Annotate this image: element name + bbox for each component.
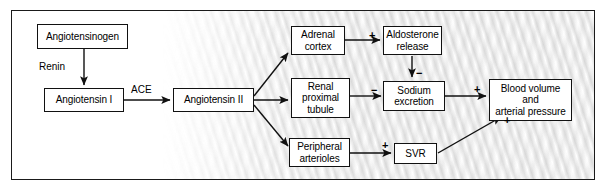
sign-tubule-to-sodium: − bbox=[371, 85, 377, 95]
node-aldosterone-release: Aldosterone release bbox=[383, 26, 442, 55]
node-adrenal-cortex: Adrenal cortex bbox=[291, 26, 345, 55]
figure-canvas: Angiotensinogen Angiotensin I Angiotensi… bbox=[0, 0, 609, 194]
sign-sodium-to-blood-volume: + bbox=[474, 84, 480, 94]
node-blood-volume-label: Blood volume and arterial pressure bbox=[495, 83, 566, 118]
node-adrenal-cortex-label: Adrenal cortex bbox=[301, 29, 335, 52]
node-angiotensin-ii: Angiotensin II bbox=[173, 88, 254, 112]
node-peripheral-arterioles-label: Peripheral arterioles bbox=[297, 141, 342, 164]
node-sodium-excretion: Sodium excretion bbox=[383, 81, 445, 111]
node-renal-proximal-tubule: Renal proximal tubule bbox=[291, 78, 350, 118]
sign-svr-to-blood-volume-text: + bbox=[504, 114, 510, 126]
sign-arterioles-to-svr-text: + bbox=[382, 139, 388, 151]
sign-tubule-to-sodium-text: − bbox=[371, 84, 377, 96]
sign-sodium-to-blood-volume-text: + bbox=[474, 83, 480, 95]
node-aldosterone-release-label: Aldosterone release bbox=[386, 29, 438, 52]
node-sodium-excretion-label: Sodium excretion bbox=[394, 85, 434, 108]
edge-label-ace: ACE bbox=[131, 84, 152, 95]
sign-arterioles-to-svr: + bbox=[382, 140, 388, 150]
node-angiotensin-i-label: Angiotensin I bbox=[56, 94, 113, 106]
edge-label-renin: Renin bbox=[39, 61, 65, 72]
edge-angiotensin-ii-to-peripheral-arterioles bbox=[254, 105, 288, 146]
node-angiotensin-i: Angiotensin I bbox=[44, 88, 124, 112]
edge-angiotensin-ii-to-adrenal-cortex bbox=[254, 53, 288, 96]
edge-svr-to-blood-volume bbox=[438, 117, 501, 153]
node-angiotensinogen-label: Angiotensinogen bbox=[46, 31, 119, 43]
edge-label-renin-text: Renin bbox=[39, 61, 65, 72]
node-renal-proximal-tubule-label: Renal proximal tubule bbox=[302, 81, 339, 116]
node-angiotensin-ii-label: Angiotensin II bbox=[184, 94, 243, 106]
node-peripheral-arterioles: Peripheral arterioles bbox=[289, 138, 350, 167]
sign-adrenal-to-aldosterone: + bbox=[369, 30, 375, 40]
sign-aldosterone-to-sodium: − bbox=[416, 68, 422, 78]
sign-svr-to-blood-volume: + bbox=[504, 115, 510, 125]
sign-aldosterone-to-sodium-text: − bbox=[416, 67, 422, 79]
node-angiotensinogen: Angiotensinogen bbox=[37, 24, 128, 49]
node-blood-volume-arterial-pressure: Blood volume and arterial pressure bbox=[489, 79, 572, 121]
node-svr: SVR bbox=[394, 143, 437, 164]
edge-label-ace-text: ACE bbox=[131, 84, 152, 95]
diagram-frame: Angiotensinogen Angiotensin I Angiotensi… bbox=[11, 10, 595, 180]
node-svr-label: SVR bbox=[405, 148, 425, 160]
sign-adrenal-to-aldosterone-text: + bbox=[369, 29, 375, 41]
